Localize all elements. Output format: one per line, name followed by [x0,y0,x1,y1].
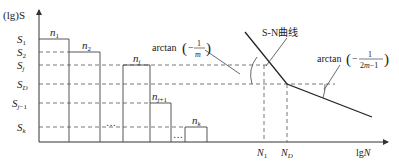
svg-text:n1: n1 [50,26,60,40]
block-labels: n1 n2 nj nj+1 nk [50,26,202,128]
svg-text:): ) [384,51,389,68]
svg-text:nk: nk [192,114,202,128]
stress-labels: S1 S2 Sj SD Sj−1 Sk [12,33,28,135]
svg-text:S1: S1 [17,33,27,47]
ellipsis-2: … [173,129,183,140]
slope-label-1: arctan ( − 1 m ) [152,39,211,59]
svg-text:−: − [352,53,358,64]
svg-text:1: 1 [368,50,372,59]
svg-text:2m−1: 2m−1 [360,61,378,70]
leader-lines [205,38,340,90]
svg-text:arctan: arctan [152,42,176,53]
svg-text:1: 1 [197,39,201,48]
svg-text:−: − [188,42,194,53]
svg-text:Sj: Sj [17,59,25,73]
svg-text:arctan: arctan [317,53,341,64]
x-axis-label: lgN [356,147,372,158]
svg-text:Sj−1: Sj−1 [12,97,27,111]
nd-marker: ND [280,147,293,160]
svg-text:nj+1: nj+1 [152,90,167,104]
svg-text:): ) [206,40,211,57]
svg-text:S2: S2 [17,46,27,60]
y-axis-label: (lg)S [3,9,25,22]
svg-text:m: m [195,50,201,59]
curve-label: S-N曲线 [262,26,298,38]
angle-arc-1 [251,57,257,84]
s-n-diagram: (lg)S S1 S2 Sj SD Sj−1 Sk n1 n2 nj nj+1 … [0,0,399,164]
svg-text:(: ( [182,40,187,57]
stress-level-guides [39,52,335,142]
svg-text:SD: SD [17,78,28,92]
slope-label-2: arctan ( − 1 2m−1 ) [317,50,389,70]
n1-marker: N1 [256,147,268,160]
ellipsis-1: … [106,117,116,128]
angle-arc-2 [323,84,325,98]
svg-text:nj: nj [133,52,141,66]
svg-text:n2: n2 [82,39,92,53]
svg-text:(: ( [346,51,351,68]
svg-text:Sk: Sk [17,121,27,135]
